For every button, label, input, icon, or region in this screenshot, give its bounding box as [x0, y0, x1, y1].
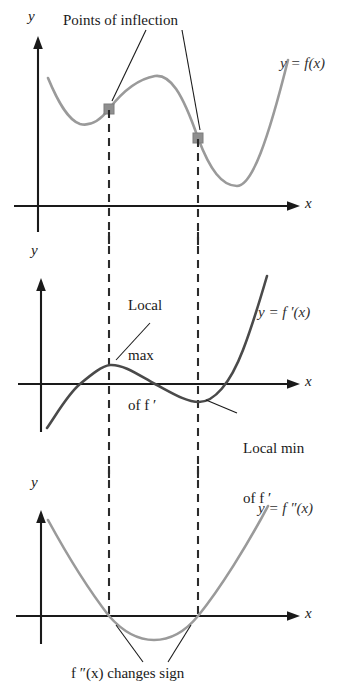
curve-f: [48, 60, 288, 186]
local-max-line-1: Local: [128, 297, 162, 314]
panel-fdd-y-axis-arrow: [36, 510, 46, 523]
function-label-f: y = f(x): [280, 55, 325, 72]
panel-f-axes: [14, 36, 300, 232]
panel-f-x-axis-arrow: [287, 201, 300, 211]
panel-fprime-x-axis-arrow: [287, 379, 300, 389]
local-max-line-3: of f ′: [128, 397, 162, 414]
curve-fdoubleprime: [48, 506, 268, 640]
panel-f-y-axis-arrow: [33, 36, 43, 49]
panel-f-x-axis-label: x: [305, 195, 312, 212]
local-max-line-2: max: [128, 347, 162, 364]
panel-fdd-y-axis-label: y: [31, 474, 38, 491]
function-label-fdoubleprime: y = f ″(x): [258, 500, 313, 517]
panel-fprime-y-axis-arrow: [36, 278, 46, 291]
panel-fprime-y-axis-label: y: [31, 242, 38, 259]
local-max-label: Local max of f ′: [128, 263, 162, 448]
function-label-fprime: y = f ′(x): [258, 304, 310, 321]
inflection-figure: y x Points of inflection y = f(x) y x Lo…: [0, 0, 359, 695]
local-min-line-1: Local min: [243, 440, 304, 457]
leader-line-inflection-left: [112, 30, 146, 101]
panel-f-y-axis-label: y: [28, 8, 35, 25]
figure-canvas: [0, 0, 359, 695]
local-min-label: Local min of f ′: [243, 406, 304, 540]
panel-fdd-x-axis-label: x: [305, 605, 312, 622]
leader-line-inflection-right: [182, 30, 200, 130]
leader-line-local-min: [206, 400, 237, 413]
panel-fprime-x-axis-label: x: [305, 373, 312, 390]
leader-line-sign-change-right: [168, 625, 191, 662]
panel-fdd-x-axis-arrow: [287, 611, 300, 621]
points-of-inflection-label: Points of inflection: [63, 12, 178, 29]
leader-line-sign-change-left: [116, 625, 143, 662]
sign-change-caption: f ″(x) changes sign: [71, 665, 184, 682]
